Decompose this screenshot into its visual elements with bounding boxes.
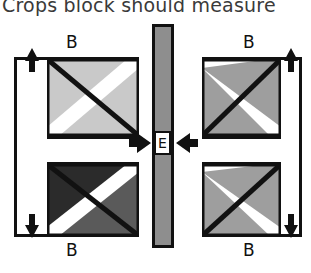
right-center-sash [202,136,281,165]
right-top-up-arrow-icon [283,48,299,72]
right-bottom-border-label: B [243,242,255,259]
left-center-sash [47,136,139,165]
left-bottom-border-label: B [66,242,78,259]
down-arrow-icon [283,214,299,238]
right-upper-unit-shape [202,59,281,136]
sashing-label: E [154,131,171,155]
down-arrow-icon [24,214,40,238]
arrow-right-icon [129,133,151,153]
left-upper-unit-shape [47,59,139,136]
diagram-canvas: Crops block should measure B B [0,0,311,273]
left-lower-unit-shape [47,164,139,236]
right-top-border-label: B [243,34,255,51]
left-lower-unit [47,164,139,236]
up-arrow-icon [24,48,40,72]
right-lower-unit [202,164,281,236]
right-bottom-down-arrow-icon [283,214,299,238]
right-join-arrow-icon [176,133,198,153]
left-top-up-arrow-icon [24,48,40,72]
left-top-border-label: B [66,34,78,51]
left-bottom-down-arrow-icon [24,214,40,238]
caption-text: Crops block should measure [0,0,311,18]
right-lower-unit-shape [202,164,281,236]
right-upper-unit [202,59,281,136]
arrow-left-icon [176,133,198,153]
left-join-arrow-icon [129,133,151,153]
left-upper-unit [47,59,139,136]
up-arrow-icon [283,48,299,72]
